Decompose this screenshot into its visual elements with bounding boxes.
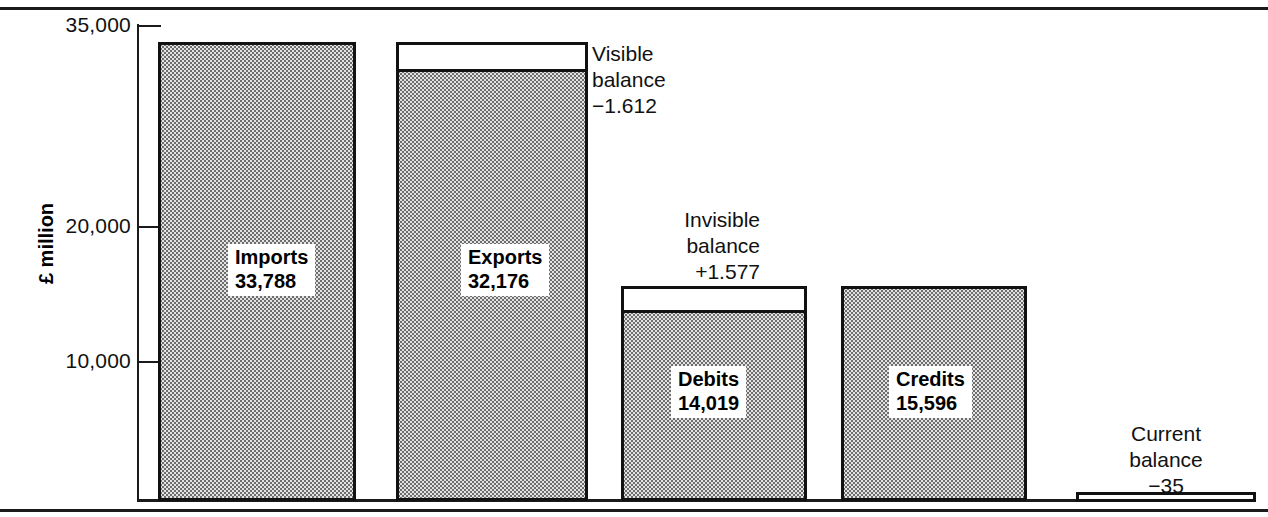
annotation-invisible-balance-line3: +1.577 xyxy=(600,259,760,285)
bar-label-debits-name: Debits xyxy=(678,368,739,392)
annotation-current-balance: Current balance −35 xyxy=(1076,421,1256,499)
bar-label-credits-value: 15,596 xyxy=(896,392,965,416)
annotation-visible-balance-line2: balance xyxy=(592,67,752,93)
y-axis-title: £ million xyxy=(35,184,58,304)
balance-of-payments-bar-chart: £ million 35,000 20,000 10,000 Imports 3… xyxy=(0,0,1268,517)
annotation-visible-balance-line1: Visible xyxy=(592,41,752,67)
bar-label-debits-value: 14,019 xyxy=(678,392,739,416)
bar-label-imports-value: 33,788 xyxy=(235,270,308,294)
annotation-current-balance-line3: −35 xyxy=(1076,473,1256,499)
annotation-current-balance-line2: balance xyxy=(1076,447,1256,473)
y-axis-spine xyxy=(137,24,139,502)
bar-label-exports-value: 32,176 xyxy=(468,270,542,294)
annotation-invisible-balance-line2: balance xyxy=(600,233,760,259)
annotation-visible-balance: Visible balance −1.612 xyxy=(592,41,752,119)
y-tick-label-20000: 20,000 xyxy=(66,214,131,238)
y-tick-label-wrap-35000: 35,000 xyxy=(0,13,131,37)
bar-label-credits: Credits 15,596 xyxy=(889,366,972,418)
annotation-invisible-balance: Invisible balance +1.577 xyxy=(600,207,760,285)
y-tick-label-wrap-10000: 10,000 xyxy=(0,349,131,373)
annotation-visible-balance-line3: −1.612 xyxy=(592,93,752,119)
annotation-invisible-balance-line1: Invisible xyxy=(600,207,760,233)
top-rule xyxy=(0,7,1268,10)
bar-label-exports-name: Exports xyxy=(468,246,542,270)
bar-label-debits: Debits 14,019 xyxy=(671,366,746,418)
bottom-rule xyxy=(0,509,1268,512)
annotation-current-balance-line1: Current xyxy=(1076,421,1256,447)
y-tick-label-35000: 35,000 xyxy=(66,13,131,37)
bar-label-credits-name: Credits xyxy=(896,368,965,392)
y-tick-label-10000: 10,000 xyxy=(66,349,131,373)
bar-label-exports: Exports 32,176 xyxy=(461,244,549,296)
bar-label-imports-name: Imports xyxy=(235,246,308,270)
y-tick-label-wrap-20000: 20,000 xyxy=(0,214,131,238)
bar-label-imports: Imports 33,788 xyxy=(228,244,315,296)
y-tick-35000 xyxy=(139,25,161,27)
